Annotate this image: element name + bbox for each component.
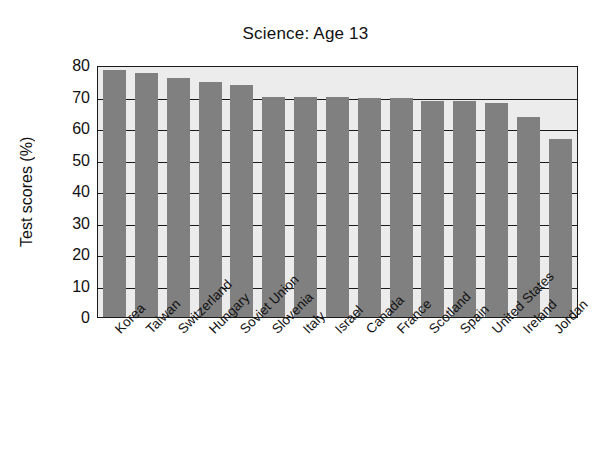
bar[interactable] [358,98,381,317]
bar[interactable] [549,139,572,317]
y-tick-label: 0 [81,310,90,326]
bar[interactable] [485,103,508,317]
bar[interactable] [230,85,253,317]
bar[interactable] [167,78,190,317]
plot-area [97,66,578,318]
y-tick-label: 30 [72,216,90,232]
bar[interactable] [453,101,476,317]
x-axis-tick-labels: KoreaTaiwanSwitzerlandHungarySoviet Unio… [97,318,578,448]
y-tick-label: 60 [72,121,90,137]
y-tick-label: 10 [72,279,90,295]
y-tick-label: 70 [72,90,90,106]
y-tick-label: 50 [72,153,90,169]
bar[interactable] [103,70,126,317]
bar[interactable] [135,73,158,317]
bar-series [98,67,577,317]
chart-title: Science: Age 13 [0,24,611,44]
bar[interactable] [326,97,349,318]
y-tick-label: 40 [72,184,90,200]
bar[interactable] [421,101,444,317]
bar[interactable] [390,98,413,317]
y-tick-label: 80 [72,58,90,74]
y-tick-label: 20 [72,247,90,263]
y-axis-tick-labels: 80706050403020100 [52,66,90,318]
y-axis-title: Test scores (%) [14,66,40,318]
chart-figure: Science: Age 13 Test scores (%) 80706050… [0,0,611,459]
